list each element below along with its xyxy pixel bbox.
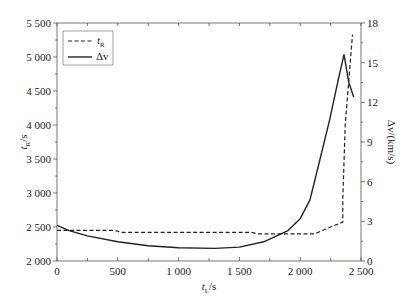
y2-tick-label: 6 (367, 176, 373, 188)
x-tick-label: 500 (110, 265, 127, 277)
x-tick-label: 1 500 (227, 265, 252, 277)
y-tick-label: 5 000 (26, 51, 51, 63)
x-tick-label: 2 000 (288, 265, 313, 277)
y-tick-label: 3 500 (26, 153, 51, 165)
y-tick-label: 4 000 (26, 119, 51, 131)
y2-tick-label: 9 (367, 136, 373, 148)
chart: 05001 0001 5002 0002 5002 0002 5003 0003… (0, 0, 403, 304)
y-tick-label: 2 500 (26, 221, 51, 233)
y-axis-label: tR/s (17, 134, 32, 149)
x-tick-label: 1 000 (166, 265, 191, 277)
series-lines (57, 35, 354, 249)
y2-tick-label: 15 (367, 57, 379, 69)
y-tick-label: 4 500 (26, 85, 51, 97)
legend-label-dv: Δv (96, 50, 109, 62)
y2-tick-label: 3 (367, 215, 373, 227)
y2-axis-label: Δv/(km/s) (385, 120, 398, 165)
y-tick-label: 5 500 (26, 17, 51, 29)
y2-tick-label: 18 (367, 17, 379, 29)
y2-tick-label: 0 (367, 255, 373, 267)
dv-line (57, 55, 354, 249)
legend: tR Δv (63, 31, 113, 65)
y2-tick-label: 12 (367, 96, 378, 108)
y-tick-label: 2 000 (26, 255, 51, 267)
y-tick-label: 3 000 (26, 187, 51, 199)
x-tick-label: 0 (54, 265, 60, 277)
x-axis-label: tL/s (202, 280, 217, 295)
